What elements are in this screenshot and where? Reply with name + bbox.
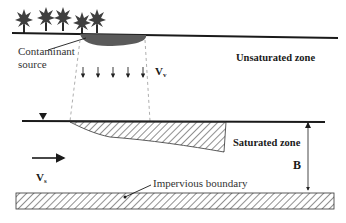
vv-sub: v — [163, 71, 167, 79]
trees-group — [15, 7, 106, 36]
water-table-marker-icon — [39, 113, 47, 120]
vv-base: V — [155, 65, 163, 77]
impervious-pointer-dot — [124, 196, 127, 199]
tree-icon — [88, 9, 106, 33]
infiltration-arrows — [83, 67, 143, 77]
impervious-boundary-label: Impervious boundary — [153, 177, 247, 189]
contaminant-label-line2: source — [18, 58, 75, 71]
aquifer-thickness-label: B — [293, 158, 301, 173]
unsaturated-zone-label: Unsaturated zone — [236, 52, 315, 63]
vertical-velocity-label: Vv — [155, 65, 166, 79]
diagram-svg — [0, 0, 346, 223]
impervious-boundary-bar — [16, 193, 334, 209]
contaminant-source-label: Contaminant source — [18, 45, 75, 71]
contaminant-label-line1: Contaminant — [18, 45, 75, 58]
contaminant-source-blob — [80, 34, 146, 46]
diagram-canvas: Contaminant source Unsaturated zone Satu… — [0, 0, 346, 223]
vs-base: V — [36, 171, 44, 183]
saturated-zone-label: Saturated zone — [233, 137, 300, 148]
dashed-projection-right — [145, 40, 150, 121]
seepage-velocity-label: Vs — [36, 171, 47, 185]
tree-icon — [37, 7, 55, 31]
tree-icon — [73, 12, 91, 36]
vs-sub: s — [44, 177, 47, 185]
ground-surface-line — [12, 33, 338, 38]
contaminant-plume — [70, 122, 226, 152]
tree-icon — [15, 9, 33, 33]
tree-icon — [54, 7, 72, 31]
